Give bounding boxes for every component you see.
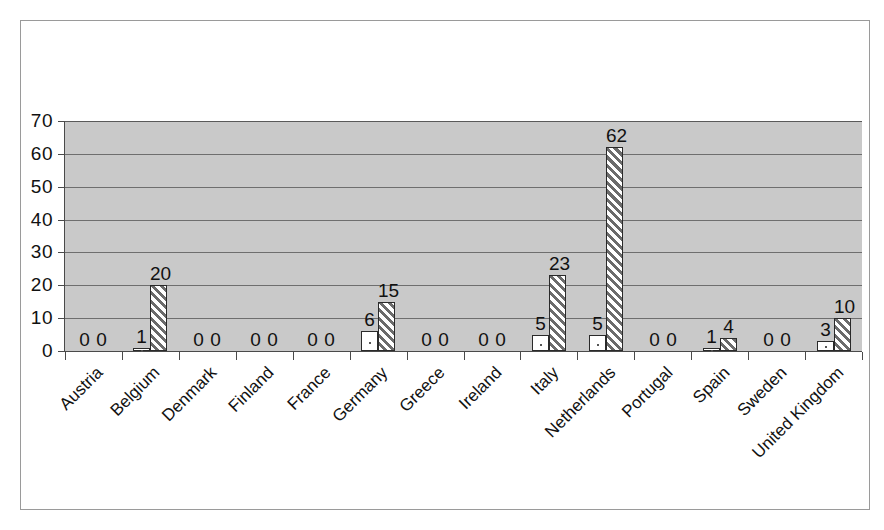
y-tick-mark — [58, 187, 65, 188]
bar-label: 1 — [133, 327, 150, 346]
category-label-united-kingdom: United Kingdom — [727, 363, 847, 483]
bar-label: 5 — [532, 314, 549, 333]
y-tick-label: 70 — [21, 110, 53, 132]
bar-label: 0 — [418, 330, 435, 349]
gridline — [65, 154, 862, 155]
bar-series-1-italy — [532, 335, 549, 351]
gridline — [65, 187, 862, 188]
y-tick-label: 10 — [21, 307, 53, 329]
x-tick-mark — [65, 352, 66, 360]
x-axis-line — [64, 351, 862, 352]
bar-label: 0 — [207, 330, 224, 349]
x-tick-mark — [236, 352, 237, 360]
y-tick-label: 50 — [21, 176, 53, 198]
bar-label: 4 — [720, 317, 737, 336]
x-tick-mark — [634, 352, 635, 360]
x-tick-mark — [179, 352, 180, 360]
x-tick-mark — [691, 352, 692, 360]
bar-label: 5 — [589, 314, 606, 333]
bar-label: 0 — [435, 330, 452, 349]
y-tick-mark — [58, 121, 65, 122]
bar-series-1-belgium — [133, 348, 150, 351]
x-tick-mark — [293, 352, 294, 360]
bar-series-2-italy — [549, 275, 566, 351]
bar-series-1-united-kingdom — [817, 341, 834, 351]
x-tick-mark — [748, 352, 749, 360]
bar-label: 0 — [646, 330, 663, 349]
y-tick-mark — [58, 318, 65, 319]
bar-label: 0 — [663, 330, 680, 349]
x-tick-mark — [520, 352, 521, 360]
bar-label: 23 — [549, 254, 566, 273]
bar-series-2-belgium — [150, 285, 167, 351]
bar-label: 1 — [703, 327, 720, 346]
y-tick-label: 60 — [21, 143, 53, 165]
bar-label: 0 — [321, 330, 338, 349]
bar-label: 0 — [190, 330, 207, 349]
bar-series-2-germany — [378, 302, 395, 351]
bar-series-1-spain — [703, 348, 720, 351]
bar-label: 0 — [304, 330, 321, 349]
bar-series-2-united-kingdom — [834, 318, 851, 351]
gridline — [65, 285, 862, 286]
y-tick-mark — [58, 351, 65, 352]
bar-label: 0 — [777, 330, 794, 349]
bar-label: 6 — [361, 310, 378, 329]
gridline — [65, 318, 862, 319]
bar-label: 0 — [247, 330, 264, 349]
x-tick-mark — [862, 352, 863, 360]
x-tick-mark — [464, 352, 465, 360]
x-tick-mark — [407, 352, 408, 360]
bar-label: 62 — [606, 126, 623, 145]
bar-label: 0 — [76, 330, 93, 349]
bar-series-1-germany — [361, 331, 378, 351]
chart-figure: 010203040506070 001200000006150000523562… — [20, 20, 870, 510]
bar-label: 3 — [817, 320, 834, 339]
y-tick-mark — [58, 285, 65, 286]
gridline — [65, 121, 862, 122]
bar-label: 0 — [264, 330, 281, 349]
bar-label: 0 — [475, 330, 492, 349]
bar-series-2-netherlands — [606, 147, 623, 351]
y-tick-mark — [58, 220, 65, 221]
y-tick-label: 0 — [21, 340, 53, 362]
bar-label: 0 — [492, 330, 509, 349]
x-tick-mark — [577, 352, 578, 360]
y-tick-label: 30 — [21, 241, 53, 263]
y-tick-label: 20 — [21, 274, 53, 296]
bar-label: 0 — [760, 330, 777, 349]
x-tick-mark — [122, 352, 123, 360]
bar-series-2-spain — [720, 338, 737, 351]
bar-label: 20 — [150, 264, 167, 283]
bar-series-1-netherlands — [589, 335, 606, 351]
bar-label: 15 — [378, 281, 395, 300]
y-tick-mark — [58, 252, 65, 253]
bar-label: 0 — [93, 330, 110, 349]
x-tick-mark — [805, 352, 806, 360]
plot-area — [65, 121, 862, 351]
bar-label: 10 — [834, 297, 851, 316]
gridline — [65, 252, 862, 253]
gridline — [65, 220, 862, 221]
y-tick-mark — [58, 154, 65, 155]
y-tick-label: 40 — [21, 209, 53, 231]
x-tick-mark — [350, 352, 351, 360]
